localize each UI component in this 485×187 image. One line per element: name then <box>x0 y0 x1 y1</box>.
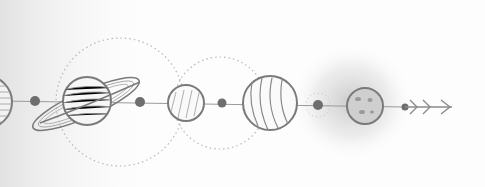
solar-system-illustration <box>0 0 485 187</box>
arrow-icon <box>405 100 452 114</box>
planets-sketch <box>0 0 485 187</box>
jupiter-icon <box>243 76 297 130</box>
small-planet-icon <box>168 85 204 121</box>
moon-planet-icon <box>347 88 383 124</box>
